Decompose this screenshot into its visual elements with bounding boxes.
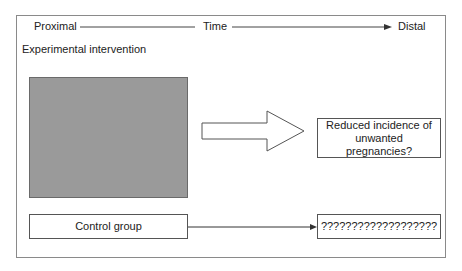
section-label: Experimental intervention <box>22 43 146 55</box>
control-group-box: Control group <box>29 214 188 239</box>
experimental-outcome-box: Reduced incidence of unwanted pregnancie… <box>317 118 441 158</box>
control-group-label: Control group <box>75 220 142 233</box>
control-outcome-box: ??????????????????? <box>317 214 441 239</box>
timeline-start-label: Proximal <box>34 20 77 32</box>
experimental-outcome-label: Reduced incidence of unwanted pregnancie… <box>318 119 440 158</box>
experimental-intervention-box <box>29 77 188 198</box>
timeline-end-label: Distal <box>398 20 426 32</box>
timeline-middle-label: Time <box>203 20 227 32</box>
control-outcome-label: ??????????????????? <box>321 220 437 233</box>
